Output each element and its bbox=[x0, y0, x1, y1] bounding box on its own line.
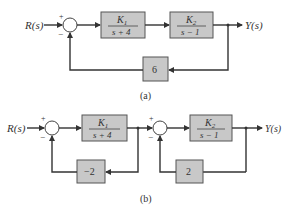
plus-sign-2: + bbox=[149, 114, 154, 123]
block1-denominator: s + 4 bbox=[112, 27, 131, 37]
summing-junction bbox=[63, 18, 77, 32]
figure-label-b: (b) bbox=[140, 193, 152, 205]
plus-sign-1: + bbox=[41, 114, 46, 123]
block2-denominator: s − 1 bbox=[181, 27, 200, 37]
output-label-y: Y(s) bbox=[245, 19, 263, 32]
feedback-gain: 6 bbox=[152, 64, 157, 75]
block1-denominator: s + 4 bbox=[93, 130, 112, 140]
diagram-b: R(s) + − K1 s + 4 + − K2 s − 1 Y(s) −2 2 bbox=[6, 114, 282, 205]
plus-sign: + bbox=[59, 12, 64, 21]
block2-denominator: s − 1 bbox=[200, 130, 219, 140]
figure-label-a: (a) bbox=[140, 90, 151, 102]
summing-junction-1 bbox=[45, 121, 59, 135]
feedback-gain-1: −2 bbox=[84, 166, 95, 177]
feedback-path-1-left bbox=[52, 136, 77, 172]
feedback-gain-2: 2 bbox=[186, 166, 191, 177]
summing-junction-2 bbox=[153, 121, 167, 135]
minus-sign: − bbox=[58, 29, 63, 39]
minus-sign-2: − bbox=[148, 132, 153, 142]
output-label-y: Y(s) bbox=[265, 123, 282, 135]
input-label-r: R(s) bbox=[6, 122, 26, 135]
feedback-path-2-left bbox=[160, 136, 176, 172]
diagram-a: R(s) + − K1 s + 4 K2 s − 1 Y(s) 6 (a) bbox=[24, 12, 263, 102]
minus-sign-1: − bbox=[40, 132, 45, 142]
feedback-path-left bbox=[70, 33, 143, 70]
input-label-r: R(s) bbox=[24, 19, 44, 32]
